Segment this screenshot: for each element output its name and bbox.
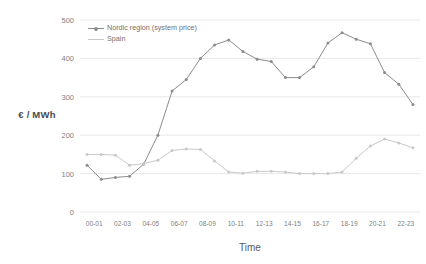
data-point [86,153,89,156]
data-point [369,144,372,147]
series-line-spain [87,139,413,174]
series-line-nordic [87,33,413,180]
x-axis-tick: 12-13 [256,220,273,227]
data-point [341,171,344,174]
x-axis-tick: 14-15 [284,220,301,227]
data-point [213,43,216,46]
data-point [312,65,315,68]
x-axis-tick: 10-11 [228,220,244,227]
y-axis-tick: 100 [48,169,74,178]
x-axis-tick: 04-05 [142,220,159,227]
data-point [100,153,103,156]
legend-label-spain: Spain [107,35,125,44]
data-point [185,78,188,81]
data-point [241,50,244,53]
data-point [156,134,159,137]
data-point [383,138,386,141]
data-point [284,76,287,79]
y-axis-tick: 200 [48,131,74,140]
data-point [369,42,372,45]
x-axis-tick: 02-03 [114,220,131,227]
y-axis-title: € / MWh [6,109,68,120]
data-point [86,164,89,167]
data-point [270,170,273,173]
legend-swatch-spain [88,35,104,44]
data-point [326,172,329,175]
series-group [86,31,415,181]
data-point [199,148,202,151]
y-axis-tick: 300 [48,92,74,101]
data-point [256,58,259,61]
data-point [156,159,159,162]
data-point [383,71,386,74]
data-point [142,162,145,165]
data-point [114,176,117,179]
data-point [411,103,414,106]
chart-container: € / MWh 0100200300400500 00-0102-0304-05… [0,0,426,264]
y-axis-tick: 500 [48,16,74,25]
data-point [355,157,358,160]
data-point [284,171,287,174]
data-point [227,38,230,41]
data-point [326,42,329,45]
data-point [171,149,174,152]
data-point [312,172,315,175]
x-axis-tick: 20-21 [369,220,386,227]
data-point [411,146,414,149]
legend-swatch-nordic [88,24,104,33]
data-point [128,164,131,167]
data-point [270,60,273,63]
data-point [100,178,103,181]
x-axis-tick: 06-07 [171,220,188,227]
data-point [128,175,131,178]
data-point [213,159,216,162]
data-point [397,141,400,144]
legend-item-nordic[interactable]: Nordic region (system price) [88,24,213,33]
x-axis-tick: 18-19 [341,220,358,227]
x-axis-title: Time [78,242,422,253]
x-axis-tick: 22-23 [397,220,414,227]
y-axis-tick: 400 [48,54,74,63]
gridlines-group [80,20,420,212]
data-point [256,170,259,173]
x-axis-tick: 00-01 [86,220,103,227]
chart-legend: Nordic region (system price) Spain [88,24,213,46]
data-point [298,76,301,79]
legend-item-spain[interactable]: Spain [88,35,213,44]
data-point [171,90,174,93]
x-axis-tick: 16-17 [312,220,329,227]
data-point [397,83,400,86]
data-point [185,148,188,151]
y-axis-tick: 0 [48,208,74,217]
legend-label-nordic: Nordic region (system price) [107,24,197,33]
data-point [227,171,230,174]
data-point [298,172,301,175]
data-point [114,154,117,157]
data-point [241,172,244,175]
data-point [199,57,202,60]
data-point [355,38,358,41]
x-axis-tick: 08-09 [199,220,216,227]
data-point [341,31,344,34]
